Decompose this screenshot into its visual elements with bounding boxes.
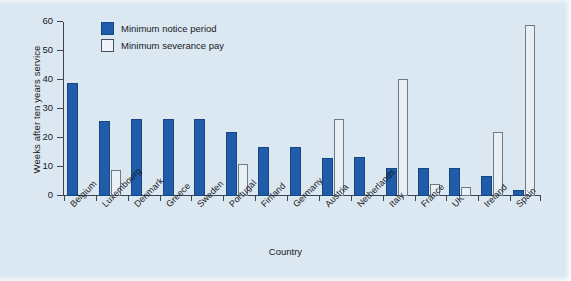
x-tick-portugal bbox=[223, 196, 224, 201]
chart-figure: Weeks after ten years service 0102030405… bbox=[0, 0, 571, 281]
scan-edge-bottom bbox=[0, 276, 571, 281]
scan-edge-right bbox=[565, 0, 571, 281]
bar-severance-italy bbox=[398, 79, 408, 196]
x-tick-sweden bbox=[191, 196, 192, 201]
x-axis-title: Country bbox=[0, 246, 571, 257]
bar-notice-greece bbox=[163, 119, 174, 196]
legend-entry-notice-period: Minimum notice period bbox=[101, 20, 276, 37]
y-tick-label-30: 30 bbox=[42, 102, 53, 113]
y-tick-label-50: 50 bbox=[42, 44, 53, 55]
bar-notice-denmark bbox=[131, 119, 142, 196]
y-tick-20: 20 bbox=[57, 137, 63, 138]
x-tick-france bbox=[415, 196, 416, 201]
bar-notice-austria bbox=[322, 158, 333, 196]
y-tick-60: 60 bbox=[57, 21, 63, 22]
scan-edge-top bbox=[0, 0, 571, 4]
x-tick-end bbox=[540, 196, 541, 201]
x-tick-luxembourg bbox=[96, 196, 97, 201]
y-tick-label-10: 10 bbox=[42, 160, 53, 171]
x-tick-spain bbox=[510, 196, 511, 201]
bar-notice-germany bbox=[290, 147, 301, 196]
bar-notice-luxembourg bbox=[99, 121, 110, 196]
legend-label-severance-pay: Minimum severance pay bbox=[121, 40, 224, 51]
bar-notice-sweden bbox=[194, 119, 205, 196]
y-tick-30: 30 bbox=[57, 108, 63, 109]
x-tick-italy bbox=[383, 196, 384, 201]
bar-severance-spain bbox=[525, 25, 535, 196]
x-tick-germany bbox=[287, 196, 288, 201]
legend-label-notice-period: Minimum notice period bbox=[121, 23, 217, 34]
x-tick-denmark bbox=[128, 196, 129, 201]
y-tick-label-60: 60 bbox=[42, 15, 53, 26]
chart-legend: Minimum notice period Minimum severance … bbox=[101, 20, 276, 54]
y-tick-0: 0 bbox=[57, 195, 63, 196]
y-tick-10: 10 bbox=[57, 166, 63, 167]
x-label-spain: Spain bbox=[514, 185, 538, 209]
bar-severance-uk bbox=[461, 187, 471, 196]
x-tick-uk bbox=[446, 196, 447, 201]
bar-notice-france bbox=[418, 168, 429, 196]
bar-notice-netherlands bbox=[354, 157, 365, 196]
x-tick-netherlands bbox=[351, 196, 352, 201]
y-axis-title: Weeks after ten years service bbox=[31, 10, 42, 210]
bar-notice-portugal bbox=[226, 132, 237, 196]
bar-notice-finland bbox=[258, 147, 269, 196]
y-axis-line bbox=[63, 22, 64, 196]
y-tick-50: 50 bbox=[57, 50, 63, 51]
legend-entry-severance-pay: Minimum severance pay bbox=[101, 37, 276, 54]
legend-swatch-icon-severance-pay bbox=[101, 39, 114, 52]
legend-swatch-icon-notice-period bbox=[101, 22, 114, 35]
y-tick-label-40: 40 bbox=[42, 73, 53, 84]
x-tick-finland bbox=[255, 196, 256, 201]
x-tick-belgium bbox=[64, 196, 65, 201]
x-tick-greece bbox=[160, 196, 161, 201]
y-tick-label-20: 20 bbox=[42, 131, 53, 142]
x-tick-ireland bbox=[478, 196, 479, 201]
y-tick-label-0: 0 bbox=[48, 189, 53, 200]
bar-notice-belgium bbox=[67, 83, 78, 196]
y-tick-40: 40 bbox=[57, 79, 63, 80]
x-tick-austria bbox=[319, 196, 320, 201]
